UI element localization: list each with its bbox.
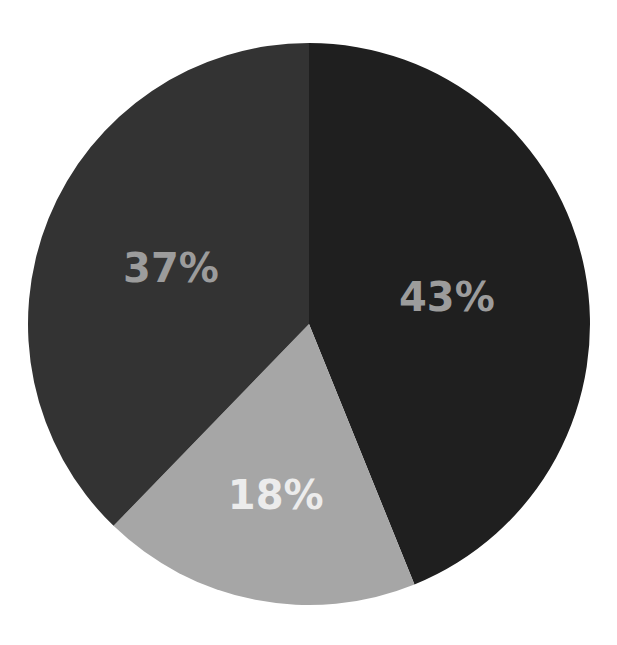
slice-label-43: 43%: [399, 274, 495, 320]
pie-chart: 43% 18% 37%: [0, 0, 617, 645]
slice-label-37: 37%: [123, 245, 219, 291]
slice-label-18: 18%: [228, 472, 324, 518]
pie-slices: [28, 43, 590, 605]
